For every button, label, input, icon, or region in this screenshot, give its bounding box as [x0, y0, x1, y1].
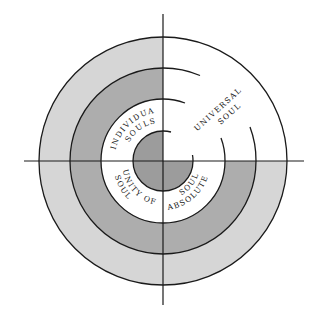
- label-universal-soul: UNIVERSAL SOUL: [192, 85, 243, 133]
- soul-diagram: INDIVIDUAL SOULS UNIVERSAL SOUL UNITY OF…: [0, 0, 319, 320]
